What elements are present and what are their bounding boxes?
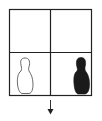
filled-figure-icon	[74, 58, 90, 95]
grid-diagram	[0, 0, 102, 121]
outlined-figure-icon	[17, 58, 33, 94]
down-arrow-icon	[48, 109, 54, 115]
